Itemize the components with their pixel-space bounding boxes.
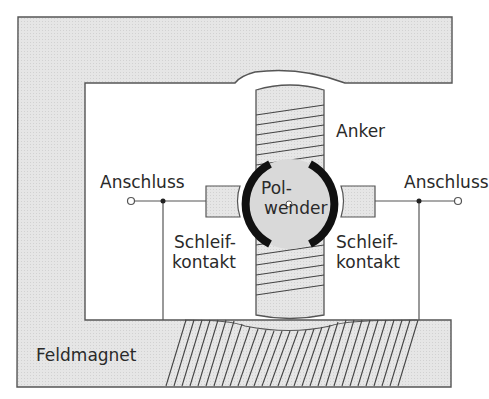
junction-right [417,199,422,204]
label-polwender-1: Pol- [261,178,292,198]
terminal-left-icon [128,198,135,205]
label-schleifkontakt-right-2: kontakt [336,252,400,272]
junction-left [161,199,166,204]
dc-motor-diagram [0,0,489,399]
label-schleifkontakt-left-1: Schleif- [174,232,236,252]
terminal-right-icon [455,198,462,205]
label-polwender-2: wender [264,198,327,218]
brush-left [206,186,240,217]
label-anschluss-right: Anschluss [404,172,489,192]
label-anker: Anker [336,121,385,141]
brush-right [341,186,375,217]
label-schleifkontakt-right-1: Schleif- [336,232,398,252]
label-schleifkontakt-left-2: kontakt [172,252,236,272]
label-anschluss-left: Anschluss [100,172,185,192]
label-feldmagnet: Feldmagnet [36,345,137,365]
